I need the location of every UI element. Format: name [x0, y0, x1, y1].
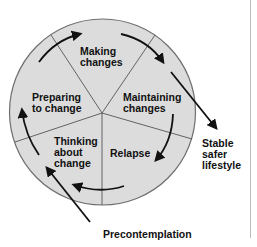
label-preparing-to-change: Preparing to change [32, 91, 84, 114]
stages-of-change-diagram: Making changes Maintaining changes Relap… [0, 0, 257, 247]
page-divider-line [250, 0, 251, 238]
label-stable-safer-lifestyle: Stable safer lifestyle [202, 137, 241, 171]
label-relapse: Relapse [110, 147, 150, 159]
label-making-changes: Making changes [80, 45, 123, 68]
label-precontemplation: Precontemplation [103, 228, 192, 240]
